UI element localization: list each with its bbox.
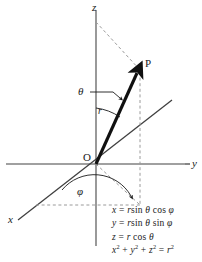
- x-axis-label: x: [8, 214, 13, 225]
- eq-z-equals: =: [118, 232, 124, 242]
- eq-x-equals: =: [119, 205, 125, 215]
- eq-y-sin: sin: [131, 218, 143, 228]
- origin-to-projection-dashed-line: [96, 164, 140, 205]
- eq-x-cos: cos: [153, 205, 166, 215]
- eq-y-lhs: y: [112, 218, 116, 228]
- theta-leader-arrow: [113, 92, 120, 98]
- eq-z-lhs: z: [112, 232, 116, 242]
- eq-y-equals: =: [119, 218, 125, 228]
- eq-z-cos: cos: [133, 232, 146, 242]
- phi-angle-label: φ: [77, 186, 83, 197]
- z-to-p-dashed-line: [96, 22, 140, 70]
- origin-label: O: [83, 152, 91, 163]
- eq-y-phi: φ: [167, 218, 172, 228]
- eq-x-phi: φ: [169, 205, 174, 215]
- point-p-label: P: [145, 58, 151, 69]
- equations-block: x = rsin θ cos φ y = rsin θ sin φ z = r …: [112, 204, 202, 258]
- radius-label: r: [98, 106, 102, 116]
- radius-vector: [96, 73, 137, 164]
- z-axis-label: z: [92, 2, 96, 13]
- eq-x-theta: θ: [145, 205, 150, 215]
- equation-z: z = r cos θ: [112, 231, 202, 244]
- eq-s-y-exp: 2: [135, 243, 138, 250]
- eq-y-theta: θ: [145, 218, 150, 228]
- eq-s-r-exp: 2: [171, 243, 174, 250]
- eq-s-plus1: +: [122, 245, 128, 255]
- equation-y: y = rsin θ sin φ: [112, 217, 202, 230]
- eq-s-plus2: +: [141, 245, 147, 255]
- eq-s-z-exp: 2: [153, 243, 156, 250]
- equation-sphere: x2 + y2 + z2 = r2: [112, 244, 202, 257]
- spherical-coordinates-figure: z y x O P θ r φ x = rsin θ cos φ y = rsi…: [0, 0, 202, 262]
- eq-s-equals: =: [159, 245, 165, 255]
- eq-y-sin2: sin: [153, 218, 165, 228]
- equation-x: x = rsin θ cos φ: [112, 204, 202, 217]
- eq-s-x-exp: 2: [116, 243, 119, 250]
- eq-z-theta: θ: [149, 232, 154, 242]
- eq-x-sin: sin: [131, 205, 143, 215]
- eq-z-r: r: [127, 232, 131, 242]
- eq-x-lhs: x: [112, 205, 116, 215]
- y-axis-label: y: [192, 158, 197, 169]
- x-axis-line: [18, 100, 172, 220]
- theta-angle-label: θ: [78, 86, 83, 97]
